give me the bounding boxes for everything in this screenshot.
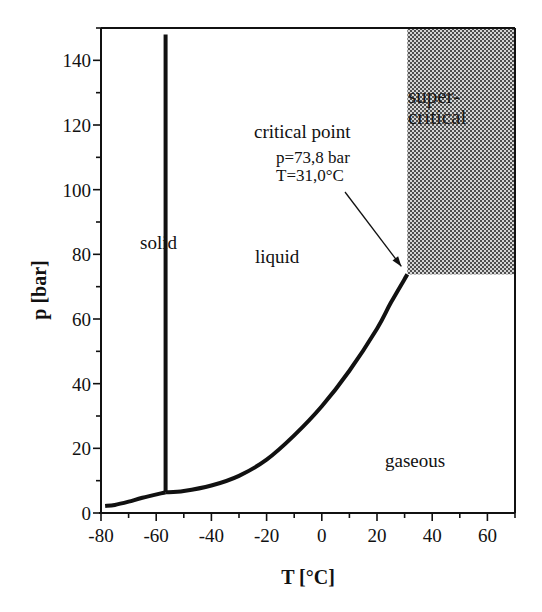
supercritical-label-line2: critical xyxy=(408,105,466,129)
x-axis-title: T [°C] xyxy=(281,566,335,588)
x-axis-ticks: -80-60-40-200204060 xyxy=(88,513,515,546)
x-tick-label: -20 xyxy=(254,525,279,546)
solid-label: solid xyxy=(140,232,177,253)
phase-boundary-curves xyxy=(105,34,407,505)
curve-vaporization-curve xyxy=(166,274,408,492)
supercritical-region xyxy=(407,28,515,274)
phase-diagram-chart: -80-60-40-200204060 020406080100120140 s… xyxy=(0,0,542,612)
y-tick-label: 60 xyxy=(72,309,91,330)
liquid-label: liquid xyxy=(255,246,300,267)
critical-point-pressure: p=73,8 bar xyxy=(276,148,350,167)
y-tick-label: 100 xyxy=(63,180,92,201)
critical-point-title: critical point xyxy=(254,121,351,142)
y-tick-label: 140 xyxy=(63,50,92,71)
y-axis-ticks: 020406080100120140 xyxy=(63,28,102,524)
y-tick-label: 20 xyxy=(72,438,91,459)
x-tick-label: 40 xyxy=(423,525,442,546)
x-tick-label: 0 xyxy=(317,525,327,546)
y-tick-label: 120 xyxy=(63,115,92,136)
gaseous-label: gaseous xyxy=(385,450,445,471)
y-tick-label: 80 xyxy=(72,244,91,265)
y-axis-title: p [bar] xyxy=(28,260,51,319)
x-tick-label: 20 xyxy=(368,525,387,546)
critical-point-temperature: T=31,0°C xyxy=(276,166,344,185)
y-tick-label: 40 xyxy=(72,374,91,395)
x-tick-label: -40 xyxy=(199,525,224,546)
curve-sublimation-curve xyxy=(105,492,165,506)
x-tick-label: -60 xyxy=(144,525,169,546)
y-tick-label: 0 xyxy=(82,503,92,524)
x-tick-label: -80 xyxy=(88,525,113,546)
x-tick-label: 60 xyxy=(478,525,497,546)
critical-point-arrow xyxy=(345,192,401,266)
